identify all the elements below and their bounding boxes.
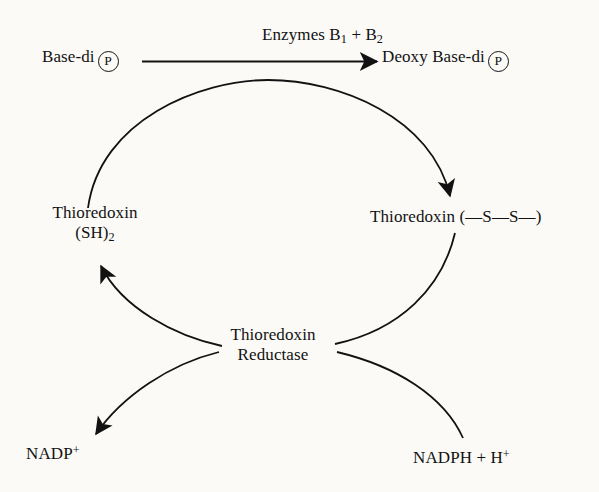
- edge-label-enzymes: Enzymes B1 + B2: [262, 25, 383, 46]
- nadph-text: NADPH + H: [413, 448, 503, 467]
- node-label-product: Deoxy Base-diP: [382, 47, 509, 72]
- substrate-text: Base-di: [42, 47, 95, 66]
- node-label-thioredoxin-oxidized: Thioredoxin (—S—S—): [370, 207, 541, 227]
- enzymes-subscript-2: 2: [377, 32, 383, 46]
- sh-group-text: (SH): [75, 223, 108, 242]
- diagram-vector-layer: [0, 0, 599, 492]
- reductase-line1: Thioredoxin: [230, 325, 315, 345]
- thioredoxin-reduced-line2: (SH)2: [52, 223, 137, 244]
- edge-nadph-to-reductase: [337, 352, 463, 438]
- node-label-nadph-h-plus: NADPH + H+: [413, 447, 510, 468]
- enzymes-joiner: + B: [347, 25, 377, 44]
- nadph-charge: +: [503, 447, 510, 461]
- sh-group-subscript: 2: [109, 230, 115, 244]
- thioredoxin-reduced-line1: Thioredoxin: [52, 203, 137, 223]
- node-label-thioredoxin-reduced: Thioredoxin (SH)2: [52, 203, 137, 244]
- phosphate-circle-icon: P: [488, 51, 509, 72]
- enzymes-prefix: Enzymes B: [262, 25, 341, 44]
- nadp-text: NADP: [26, 444, 73, 463]
- edge-reductase-to-reduced-thioredoxin: [101, 266, 222, 346]
- reductase-line2: Reductase: [230, 345, 315, 365]
- edge-reductase-to-nadp: [96, 352, 219, 434]
- product-text: Deoxy Base-di: [382, 47, 485, 66]
- node-label-nadp-plus: NADP+: [26, 443, 80, 464]
- edge-oxidized-thioredoxin-to-reductase: [335, 233, 455, 344]
- edge-reduced-to-oxidized-thioredoxin: [88, 80, 450, 208]
- diagram-canvas: Base-diP Enzymes B1 + B2 Deoxy Base-diP …: [0, 0, 599, 492]
- nadp-charge: +: [73, 443, 80, 457]
- phosphate-circle-icon: P: [98, 51, 119, 72]
- node-label-substrate: Base-diP: [42, 47, 119, 72]
- node-label-thioredoxin-reductase: Thioredoxin Reductase: [230, 325, 315, 365]
